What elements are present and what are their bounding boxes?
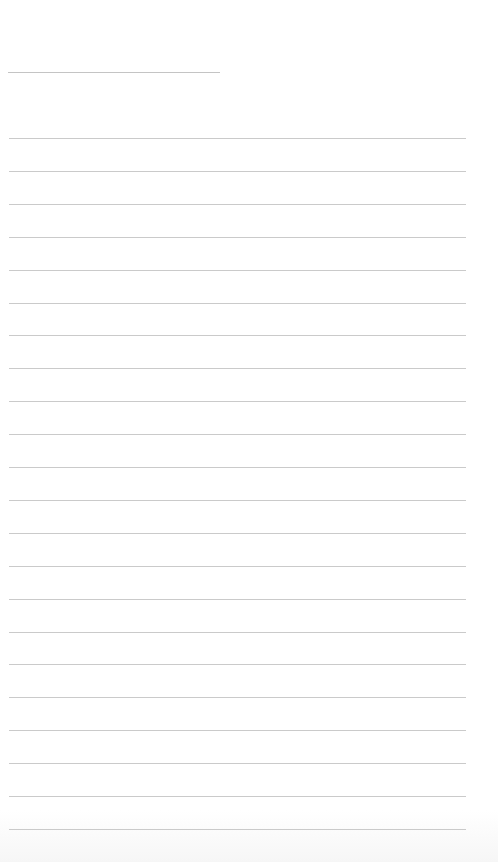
ruled-line bbox=[9, 664, 466, 665]
ruled-line bbox=[9, 566, 466, 567]
ruled-line bbox=[9, 335, 466, 336]
ruled-line bbox=[9, 171, 466, 172]
ruled-line bbox=[9, 401, 466, 402]
ruled-line bbox=[9, 500, 466, 501]
ruled-line bbox=[9, 138, 466, 139]
ruled-line bbox=[9, 204, 466, 205]
ruled-line bbox=[9, 697, 466, 698]
ruled-line bbox=[9, 763, 466, 764]
ruled-line bbox=[9, 599, 466, 600]
ruled-line bbox=[9, 434, 466, 435]
ruled-line bbox=[9, 237, 466, 238]
lined-paper-page bbox=[0, 0, 498, 862]
ruled-line bbox=[9, 829, 466, 830]
ruled-line bbox=[9, 303, 466, 304]
ruled-line bbox=[9, 796, 466, 797]
ruled-line bbox=[9, 730, 466, 731]
ruled-line bbox=[9, 632, 466, 633]
ruled-line bbox=[9, 270, 466, 271]
ruled-line bbox=[9, 368, 466, 369]
ruled-line bbox=[9, 467, 466, 468]
header-write-line bbox=[8, 72, 220, 73]
ruled-line bbox=[9, 533, 466, 534]
